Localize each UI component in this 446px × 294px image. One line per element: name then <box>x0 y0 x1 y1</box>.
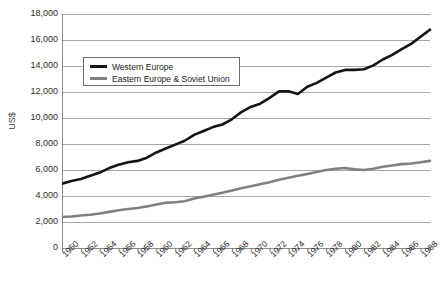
y-axis-tick-label: 6,000 <box>14 164 58 174</box>
plot-svg <box>62 14 446 260</box>
y-axis-tick-label: 14,000 <box>14 60 58 70</box>
chart-container: US$ 18,00016,00014,00012,00010,0008,0006… <box>0 0 446 294</box>
y-axis-tick-label: 16,000 <box>14 34 58 44</box>
y-axis-tick-label: 10,000 <box>14 112 58 122</box>
legend-item-label: Eastern Europe & Soviet Union <box>112 74 230 84</box>
gridlines <box>62 15 430 249</box>
legend-item-label: Western Europe <box>112 62 173 72</box>
legend-line-swatch-icon <box>90 65 107 68</box>
series-line-1 <box>62 30 430 184</box>
y-axis-tick-label: 12,000 <box>14 86 58 96</box>
y-axis-tick-labels: 18,00016,00014,00012,00010,0008,0006,000… <box>10 0 58 294</box>
y-axis-tick-label: 0 <box>14 242 58 252</box>
chart-legend: Western EuropeEastern Europe & Soviet Un… <box>83 57 240 86</box>
legend-line-swatch-icon <box>90 77 107 80</box>
legend-item: Western Europe <box>90 61 239 72</box>
y-axis-tick-label: 18,000 <box>14 8 58 18</box>
y-axis-tick-label: 8,000 <box>14 138 58 148</box>
x-axis-tick-labels: 1950195219541956195819601962196419661968… <box>62 248 446 294</box>
y-axis-tick-label: 2,000 <box>14 216 58 226</box>
series-line-2 <box>62 161 430 217</box>
y-axis-tick-label: 4,000 <box>14 190 58 200</box>
legend-item: Eastern Europe & Soviet Union <box>90 73 239 84</box>
plot-area <box>62 14 430 248</box>
